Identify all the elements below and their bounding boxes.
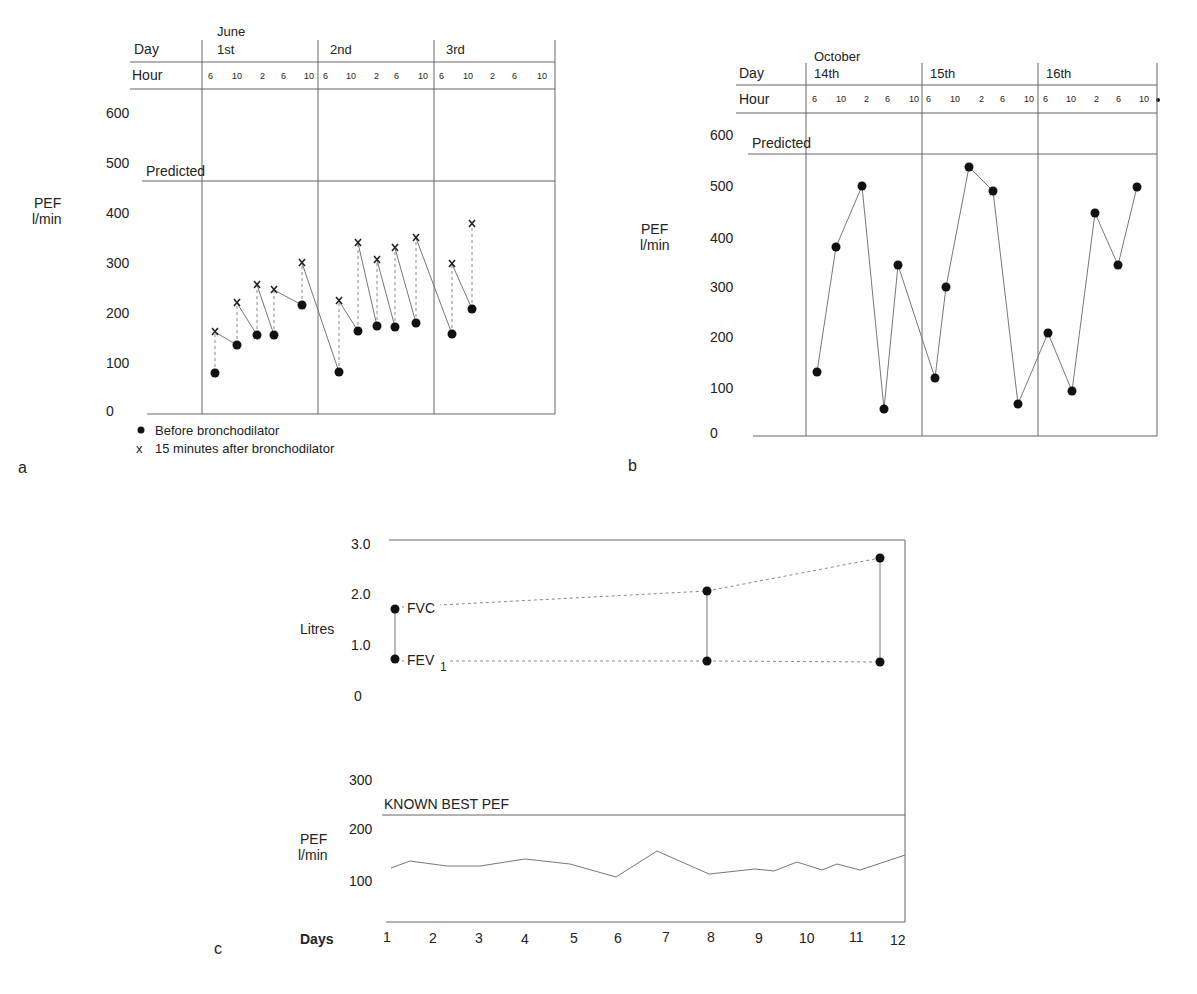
svg-text:500: 500 — [710, 178, 734, 194]
svg-text:10: 10 — [799, 930, 815, 946]
y-axis-label-b-line2: l/min — [640, 237, 670, 253]
panel-label-b: b — [628, 457, 637, 474]
svg-text:10: 10 — [418, 71, 428, 81]
legend-before: Before bronchodilator — [155, 423, 280, 438]
y-axis-label-a-line1: PEF — [34, 195, 61, 211]
svg-text:0: 0 — [354, 688, 362, 704]
chart-b: October Day 14th 15th 16th Hour 6 10 2 6… — [628, 49, 1160, 474]
y-axis-label-c-lower-line2: l/min — [298, 847, 328, 863]
svg-text:100: 100 — [710, 380, 734, 396]
series-c-markers — [391, 554, 885, 667]
svg-text:4: 4 — [521, 931, 529, 947]
svg-text:3.0: 3.0 — [351, 536, 371, 552]
svg-text:600: 600 — [710, 127, 734, 143]
svg-text:6: 6 — [1043, 94, 1048, 104]
svg-text:10: 10 — [463, 71, 473, 81]
svg-text:1: 1 — [383, 929, 391, 945]
series-a-after-markers — [212, 220, 475, 335]
hour-header-a: Hour — [132, 67, 163, 83]
svg-text:500: 500 — [106, 155, 130, 171]
day-16th: 16th — [1046, 66, 1071, 81]
y-axis-ticks-b: 600 500 400 300 200 100 0 — [710, 127, 734, 441]
day-header-a: Day — [134, 41, 159, 57]
svg-text:2: 2 — [1094, 94, 1099, 104]
day-15th: 15th — [930, 66, 955, 81]
predicted-label-a: Predicted — [146, 163, 205, 179]
x-axis-ticks-c: 1 2 3 4 5 6 7 8 9 10 11 12 — [383, 929, 906, 948]
fev1-subscript: 1 — [440, 660, 447, 674]
svg-text:6: 6 — [1000, 94, 1005, 104]
svg-text:2: 2 — [864, 94, 869, 104]
y-axis-label-c-lower-line1: PEF — [300, 831, 327, 847]
day-3rd: 3rd — [446, 42, 465, 57]
y-axis-label-b-line1: PEF — [641, 221, 668, 237]
fvc-label: FVC — [407, 600, 435, 616]
svg-text:5: 5 — [570, 930, 578, 946]
legend-a: Before bronchodilator x 15 minutes after… — [136, 423, 335, 456]
legend-dot-icon — [138, 427, 145, 434]
day-header-b: Day — [739, 65, 764, 81]
svg-text:300: 300 — [106, 255, 130, 271]
svg-text:1.0: 1.0 — [351, 637, 371, 653]
series-b-markers — [813, 163, 1142, 414]
svg-text:2: 2 — [429, 930, 437, 946]
svg-text:8: 8 — [707, 929, 715, 945]
svg-text:10: 10 — [304, 71, 314, 81]
predicted-label-b: Predicted — [752, 135, 811, 151]
panel-label-c: c — [214, 940, 222, 957]
svg-text:6: 6 — [512, 71, 517, 81]
figure-canvas: June Day 1st 2nd 3rd Hour 6 10 2 6 10 6 … — [0, 0, 1197, 994]
hour-ticks-a: 6 10 2 6 10 6 10 2 6 10 6 10 2 6 10 — [208, 71, 547, 81]
fev1-label: FEV — [407, 652, 435, 668]
svg-text:3: 3 — [475, 930, 483, 946]
svg-text:9: 9 — [755, 930, 763, 946]
svg-text:2: 2 — [490, 71, 495, 81]
svg-text:10: 10 — [909, 94, 919, 104]
svg-text:6: 6 — [323, 71, 328, 81]
known-best-pef-label: KNOWN BEST PEF — [384, 796, 509, 812]
legend-after: 15 minutes after bronchodilator — [155, 441, 335, 456]
hour-ticks-b: 6 10 2 6 10 6 10 2 6 10 6 10 2 6 10 — [812, 94, 1149, 104]
svg-text:2: 2 — [374, 71, 379, 81]
svg-text:6: 6 — [614, 930, 622, 946]
svg-text:400: 400 — [106, 205, 130, 221]
day-2nd: 2nd — [330, 42, 352, 57]
svg-text:100: 100 — [106, 355, 130, 371]
svg-text:10: 10 — [346, 71, 356, 81]
svg-text:10: 10 — [1066, 94, 1076, 104]
series-c-pef-line — [391, 851, 905, 877]
svg-text:12: 12 — [890, 932, 906, 948]
svg-text:100: 100 — [349, 873, 373, 889]
svg-text:300: 300 — [710, 279, 734, 295]
chart-a: June Day 1st 2nd 3rd Hour 6 10 2 6 10 6 … — [18, 24, 555, 476]
y-axis-ticks-c-lower: 300 200 100 — [349, 772, 373, 889]
chart-c: 3.0 2.0 1.0 0 Litres FVC FEV 1 300 200 — [214, 536, 906, 957]
legend-x-icon: x — [136, 441, 143, 456]
svg-text:2: 2 — [979, 94, 984, 104]
hour-header-b: Hour — [739, 91, 770, 107]
svg-text:0: 0 — [106, 403, 114, 419]
svg-text:2: 2 — [260, 71, 265, 81]
y-axis-label-c-upper: Litres — [300, 621, 334, 637]
y-axis-ticks-a: 600 500 400 300 200 100 0 — [106, 105, 130, 419]
svg-text:11: 11 — [849, 929, 864, 945]
svg-text:10: 10 — [537, 71, 547, 81]
svg-text:200: 200 — [710, 329, 734, 345]
day-1st: 1st — [217, 42, 235, 57]
y-axis-label-a-line2: l/min — [32, 211, 62, 227]
svg-text:0: 0 — [710, 425, 718, 441]
x-axis-label-c: Days — [300, 931, 334, 947]
day-14th: 14th — [814, 66, 839, 81]
svg-text:6: 6 — [812, 94, 817, 104]
svg-text:2.0: 2.0 — [351, 586, 371, 602]
svg-text:600: 600 — [106, 105, 130, 121]
svg-text:6: 6 — [439, 71, 444, 81]
svg-text:6: 6 — [885, 94, 890, 104]
svg-text:6: 6 — [208, 71, 213, 81]
svg-text:200: 200 — [106, 305, 130, 321]
svg-text:300: 300 — [349, 772, 373, 788]
svg-text:6: 6 — [394, 71, 399, 81]
series-a-before-markers — [211, 301, 477, 378]
svg-text:10: 10 — [1024, 94, 1034, 104]
svg-text:10: 10 — [836, 94, 846, 104]
